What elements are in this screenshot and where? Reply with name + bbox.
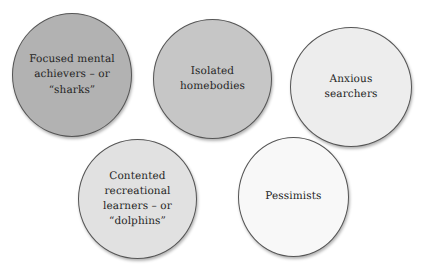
bubble-label-contented-recreational-learners: Contented recreational learners – or “do… [93, 169, 182, 230]
bubble-isolated-homebodies[interactable]: Isolated homebodies [153, 19, 272, 139]
bubble-pessimists[interactable]: Pessimists [238, 137, 349, 257]
bubble-anxious-searchers[interactable]: Anxious searchers [290, 27, 412, 147]
bubble-label-anxious-searchers: Anxious searchers [314, 72, 387, 102]
bubble-label-pessimists: Pessimists [255, 189, 331, 204]
bubble-label-isolated-homebodies: Isolated homebodies [170, 64, 255, 94]
bubble-contented-recreational-learners[interactable]: Contented recreational learners – or “do… [78, 139, 197, 259]
bubble-label-focused-mental-achievers: Focused mental achievers – or “sharks” [19, 52, 125, 98]
bubble-diagram-canvas: Focused mental achievers – or “sharks” I… [0, 0, 430, 275]
bubble-focused-mental-achievers[interactable]: Focused mental achievers – or “sharks” [12, 13, 132, 137]
